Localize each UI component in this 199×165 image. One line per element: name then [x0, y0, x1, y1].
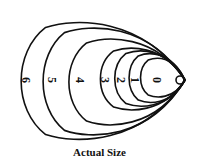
figure-caption: Actual Size [0, 146, 199, 158]
size-label-4: 4 [73, 77, 87, 83]
size-labels: 0123456 [19, 77, 164, 83]
size-label-6: 6 [19, 77, 33, 83]
size-label-3: 3 [98, 77, 112, 83]
size-label-5: 5 [45, 77, 59, 83]
size-label-2: 2 [114, 77, 128, 83]
size-label-1: 1 [128, 77, 142, 83]
nested-size-gauge-diagram: 0123456 [0, 0, 199, 165]
size-label-0: 0 [150, 77, 164, 83]
